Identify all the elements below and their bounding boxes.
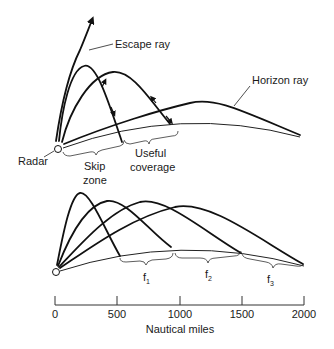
useful-coverage-label-line2: coverage [130, 161, 175, 173]
horizon-ray [64, 102, 300, 144]
skip-ray-2 [62, 72, 170, 142]
ray-f3 [59, 201, 241, 267]
skip-zone-brace [63, 141, 124, 156]
radar-icon [53, 269, 60, 276]
f3-brace [242, 254, 303, 268]
f1-label: f1 [143, 271, 150, 285]
skip-ray-1 [59, 66, 122, 142]
arrow-up-icon [102, 81, 105, 87]
escape-ray-label: Escape ray [115, 38, 171, 50]
useful-coverage-label-line1: Useful [135, 147, 166, 159]
useful-coverage-brace [124, 131, 178, 144]
axis-tick-label: 500 [108, 308, 126, 320]
escape-ray-leader [89, 44, 113, 50]
radar-label: Radar [18, 155, 48, 167]
radar-icon [55, 146, 62, 153]
f2-label: f2 [205, 268, 212, 282]
over-the-horizon-radar-diagram: Escape ray Horizon ray Radar Skip zone U… [0, 0, 334, 349]
f3-label: f3 [267, 273, 274, 287]
distance-axis: 0 500 1000 1500 2000 Nautical miles [52, 296, 316, 335]
axis-tick-label: 1000 [168, 308, 192, 320]
earth-surface-top [63, 123, 300, 148]
horizon-ray-leader [234, 86, 250, 106]
skip-zone-label-line2: zone [83, 174, 107, 186]
top-panel: Escape ray Horizon ray Radar Skip zone U… [18, 20, 309, 186]
axis-tick-label: 0 [52, 308, 58, 320]
earth-surface-bottom [60, 250, 304, 271]
bottom-panel: f1 f2 f3 [53, 193, 305, 287]
horizon-ray-label: Horizon ray [252, 74, 309, 86]
axis-tick-label: 1500 [230, 308, 254, 320]
f2-brace [175, 251, 241, 263]
skip-zone-label-line1: Skip [84, 160, 105, 172]
ray-f1 [57, 193, 120, 265]
axis-title: Nautical miles [146, 323, 215, 335]
axis-tick-label: 2000 [292, 308, 316, 320]
